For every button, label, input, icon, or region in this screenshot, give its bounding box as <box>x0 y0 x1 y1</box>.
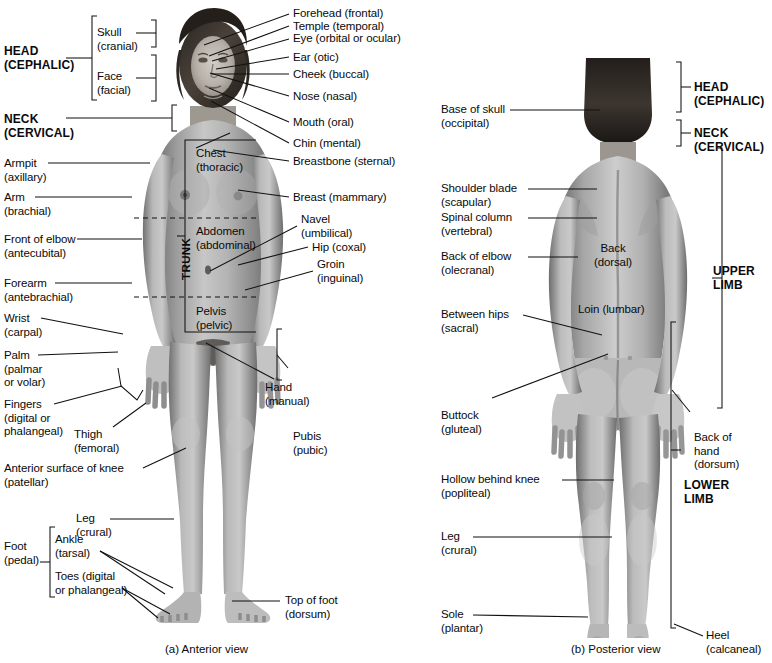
anterior-region-neck: NECK (CERVICAL) <box>4 112 74 140</box>
posterior-label-between-hips: Between hips (sacral) <box>441 308 509 335</box>
anterior-subregion-skull: Skull (cranial) <box>97 26 138 53</box>
anterior-label-eye: Eye (orbital or ocular) <box>293 32 401 46</box>
anterior-label-thigh: Thigh (femoral) <box>74 428 119 455</box>
anterior-subregion-foot: Foot (pedal) <box>4 540 39 567</box>
anterior-label-top-of-foot: Top of foot (dorsum) <box>285 594 338 621</box>
posterior-region-head: HEAD (CEPHALIC) <box>694 80 764 108</box>
anatomy-figure-root: HEAD (CEPHALIC) NECK (CERVICAL) Skull (c… <box>0 0 772 663</box>
posterior-label-base-of-skull: Base of skull (occipital) <box>441 103 505 130</box>
anterior-region-trunk: TRUNK <box>180 238 192 280</box>
anterior-label-navel: Navel (umbilical) <box>301 213 352 240</box>
caption-posterior: (b) Posterior view <box>571 643 660 655</box>
posterior-label-shoulder-blade: Shoulder blade (scapular) <box>441 182 517 209</box>
posterior-label-spinal-column: Spinal column (vertebral) <box>441 211 512 238</box>
posterior-label-back-of-hand: Back of hand (dorsum) <box>694 431 739 472</box>
anterior-label-breastbone: Breastbone (sternal) <box>293 155 395 169</box>
posterior-region-upper-limb: UPPER LIMB <box>713 264 755 292</box>
anterior-region-head: HEAD (CEPHALIC) <box>4 44 74 72</box>
posterior-label-heel: Heel (calcaneal) <box>706 629 761 656</box>
caption-anterior: (a) Anterior view <box>165 643 248 655</box>
anterior-label-chin: Chin (mental) <box>293 137 361 151</box>
anterior-label-cheek: Cheek (buccal) <box>293 68 369 82</box>
anterior-label-ankle: Ankle (tarsal) <box>55 533 90 560</box>
anterior-label-mouth: Mouth (oral) <box>293 116 354 130</box>
posterior-label-buttock: Buttock (gluteal) <box>441 409 482 436</box>
anterior-label-nose: Nose (nasal) <box>293 90 357 104</box>
posterior-label-hollow-behind-knee: Hollow behind knee (popliteal) <box>441 473 540 500</box>
anterior-label-pubis: Pubis (pubic) <box>293 430 327 457</box>
posterior-label-sole: Sole (plantar) <box>441 608 483 635</box>
anterior-trunk-chest: Chest (thoracic) <box>196 147 243 174</box>
anterior-label-groin: Groin (inguinal) <box>317 258 363 285</box>
anterior-label-forearm: Forearm (antebrachial) <box>4 277 73 304</box>
anterior-label-ear: Ear (otic) <box>293 51 339 65</box>
anterior-label-hand: Hand (manual) <box>265 381 310 408</box>
anterior-label-forehead: Forehead (frontal) <box>293 7 383 21</box>
anterior-subregion-face: Face (facial) <box>97 70 131 97</box>
anterior-label-knee: Anterior surface of knee (patellar) <box>4 462 124 489</box>
anterior-label-hip: Hip (coxal) <box>312 241 366 255</box>
anterior-label-fingers: Fingers (digital or phalangeal) <box>4 398 63 439</box>
anterior-label-arm: Arm (brachial) <box>4 191 51 218</box>
posterior-region-neck: NECK (CERVICAL) <box>694 126 764 154</box>
posterior-body-image <box>528 58 708 638</box>
anterior-label-armpit: Armpit (axillary) <box>4 157 46 184</box>
anterior-trunk-pelvis: Pelvis (pelvic) <box>196 305 232 332</box>
anterior-label-palm: Palm (palmar or volar) <box>4 349 45 390</box>
posterior-label-leg: Leg (crural) <box>441 530 477 557</box>
anterior-label-front-of-elbow: Front of elbow (antecubital) <box>4 233 75 260</box>
posterior-label-back: Back (dorsal) <box>583 242 643 269</box>
anterior-label-breast: Breast (mammary) <box>293 191 387 205</box>
anterior-label-wrist: Wrist (carpal) <box>4 312 42 339</box>
posterior-label-loin: Loin (lumbar) <box>578 303 644 317</box>
anterior-trunk-abdomen: Abdomen (abdominal) <box>196 225 256 252</box>
posterior-label-back-of-elbow: Back of elbow (olecranal) <box>441 250 511 277</box>
anterior-label-toes: Toes (digital or phalangeal) <box>55 570 127 597</box>
posterior-region-lower-limb: LOWER LIMB <box>684 478 729 506</box>
